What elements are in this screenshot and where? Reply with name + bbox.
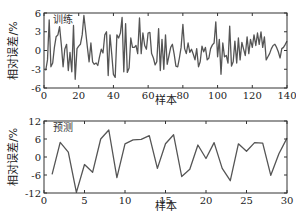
- x-tick-label: 0: [41, 195, 47, 206]
- y-tick-label: -3: [31, 64, 41, 75]
- x-tick-label: 30: [281, 195, 294, 206]
- y-axis-label: 相对误差/%: [6, 21, 20, 79]
- data-line: [46, 16, 287, 80]
- y-tick-label: -6: [31, 170, 41, 181]
- x-tick-label: 80: [176, 90, 189, 101]
- x-tick-label: 140: [277, 90, 296, 101]
- y-tick-label: 6: [35, 134, 41, 145]
- data-line: [52, 130, 287, 192]
- y-tick-label: 12: [28, 116, 41, 127]
- y-tick-label: -12: [25, 188, 41, 199]
- training-error-plot: 020406080100120140-6-3036训练样本相对误差/%: [6, 8, 296, 108]
- x-tick-label: 60: [142, 90, 155, 101]
- y-tick-label: 0: [35, 152, 41, 163]
- chart-figure: 020406080100120140-6-3036训练样本相对误差/% 0510…: [0, 0, 296, 221]
- y-tick-label: 3: [35, 26, 41, 37]
- x-tick-label: 40: [107, 90, 120, 101]
- plot-frame: [44, 13, 287, 88]
- x-tick-label: 100: [208, 90, 227, 101]
- x-tick-label: 25: [240, 195, 253, 206]
- y-axis-label: 相对误差/%: [6, 128, 20, 186]
- y-tick-label: 6: [35, 8, 41, 19]
- x-axis-label: 样本: [155, 199, 177, 213]
- x-tick-label: 5: [81, 195, 87, 206]
- x-tick-label: 20: [200, 195, 213, 206]
- y-tick-label: 0: [35, 45, 41, 56]
- x-axis-label: 样本: [155, 93, 177, 107]
- series-annotation: 训练: [53, 13, 73, 25]
- x-tick-label: 10: [119, 195, 132, 206]
- x-tick-label: 20: [72, 90, 85, 101]
- series-annotation: 预测: [53, 121, 73, 133]
- x-tick-label: 0: [41, 90, 47, 101]
- y-tick-label: -6: [31, 83, 41, 94]
- x-tick-label: 120: [243, 90, 262, 101]
- plot-frame: [44, 121, 287, 193]
- prediction-error-plot: 051015202530-12-60612预测样本相对误差/%: [6, 116, 293, 214]
